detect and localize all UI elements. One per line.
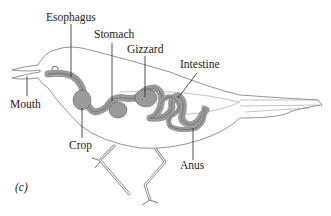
label-gizzard: Gizzard bbox=[127, 44, 163, 56]
digestive-tract bbox=[48, 73, 206, 125]
crop-shape bbox=[73, 90, 91, 110]
panel-label: (c) bbox=[15, 182, 28, 194]
label-intestine: Intestine bbox=[180, 59, 220, 71]
label-crop: Crop bbox=[69, 140, 92, 152]
stomach-shape bbox=[109, 102, 127, 118]
label-mouth: Mouth bbox=[10, 99, 41, 111]
label-esophagus: Esophagus bbox=[46, 12, 96, 24]
label-stomach: Stomach bbox=[94, 29, 134, 41]
label-anus: Anus bbox=[180, 160, 204, 172]
bird-diagram bbox=[0, 0, 331, 216]
gizzard-shape bbox=[135, 89, 157, 107]
